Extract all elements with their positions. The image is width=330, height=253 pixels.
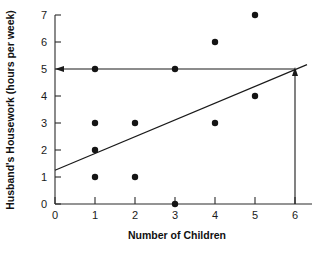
data-point [132,174,138,180]
y-tick-label-3: 3 [41,117,47,129]
x-tick-label-4: 4 [212,209,218,221]
data-point [172,66,178,72]
x-tick-label-3: 3 [172,209,178,221]
x-tick-label-5: 5 [252,209,258,221]
y-axis-ticks [55,15,61,204]
scatter-plot: 0 1 2 3 4 5 6 7 0 1 2 3 4 5 6 Number of … [0,0,330,253]
y-tick-label-7: 7 [41,9,47,21]
x-tick-label-1: 1 [92,209,98,221]
data-point [92,174,98,180]
prediction-vertical-arrow [292,67,298,204]
data-point [212,39,218,45]
y-tick-label-5: 5 [41,63,47,75]
data-point [92,147,98,153]
y-tick-label-1: 1 [41,171,47,183]
data-point [132,120,138,126]
data-point [172,201,178,207]
y-tick-label-0: 0 [41,198,47,210]
data-point [252,93,258,99]
y-axis-title: Husband's Housework (hours per week) [4,10,16,210]
data-point [92,120,98,126]
x-tick-label-6: 6 [292,209,298,221]
chart-container: 0 1 2 3 4 5 6 7 0 1 2 3 4 5 6 Number of … [0,0,330,253]
regression-line [55,65,307,171]
data-point [252,12,258,18]
y-tick-label-4: 4 [41,90,47,102]
x-axis-title: Number of Children [128,229,226,241]
y-tick-label-2: 2 [41,144,47,156]
data-point [212,120,218,126]
data-point [92,66,98,72]
data-points [92,12,258,207]
x-tick-label-0: 0 [52,209,58,221]
y-tick-label-6: 6 [41,36,47,48]
x-tick-label-2: 2 [132,209,138,221]
